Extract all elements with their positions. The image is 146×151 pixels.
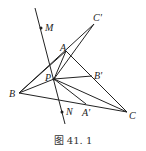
label-a: A	[59, 42, 67, 53]
label-b: B	[9, 88, 15, 99]
point-m-dot	[40, 27, 43, 30]
segment-bc-prime	[19, 24, 94, 93]
geometry-figure: M C' A P B' B N A' C 图 41. 1	[0, 0, 146, 151]
segment-pc	[54, 79, 127, 112]
label-c-prime: C'	[93, 12, 103, 23]
label-c: C	[129, 110, 136, 121]
label-n: N	[65, 106, 74, 117]
point-n-dot	[61, 111, 64, 114]
segment-pb-prime	[54, 76, 92, 79]
label-m: M	[44, 22, 54, 33]
label-p: P	[44, 72, 51, 83]
point-p-dot	[53, 78, 56, 81]
figure-caption: 图 41. 1	[54, 135, 93, 146]
label-b-prime: B'	[94, 70, 103, 81]
label-a-prime: A'	[81, 107, 91, 118]
